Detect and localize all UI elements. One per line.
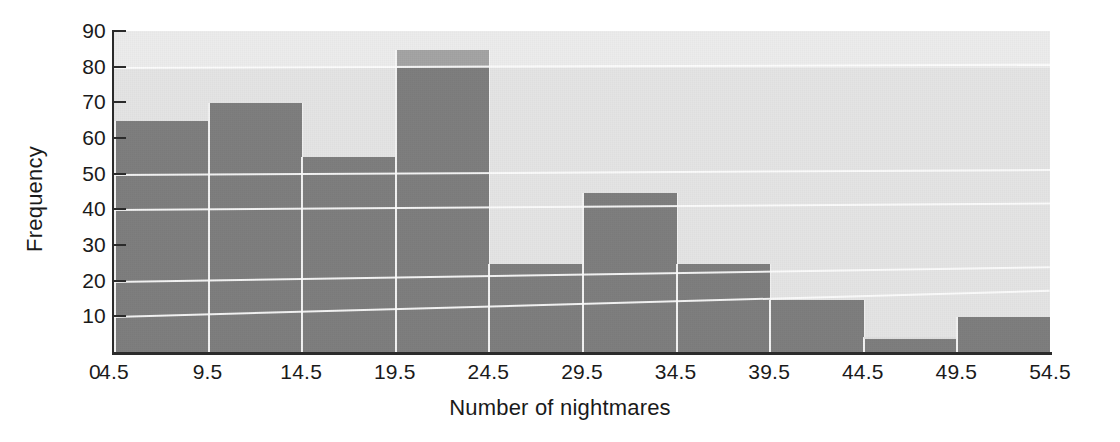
- x-axis-tick-label: 39.5: [748, 360, 790, 384]
- y-axis-tick-label: 90: [66, 20, 106, 41]
- y-axis-tick: [113, 30, 126, 32]
- plot-area: [114, 31, 1050, 353]
- x-axis-tick-label: 29.5: [561, 360, 603, 384]
- y-axis-tick: [113, 280, 126, 282]
- bar: [863, 337, 959, 353]
- y-axis-tick-label: 20: [66, 270, 106, 291]
- x-axis-tick-label: 14.5: [280, 360, 322, 384]
- y-axis-tick-label: 80: [66, 56, 106, 77]
- bar: [208, 103, 304, 353]
- bar: [769, 300, 865, 354]
- y-axis-tick-label: 10: [66, 305, 106, 326]
- bar: [956, 317, 1050, 353]
- y-axis-tick-label: 30: [66, 234, 106, 255]
- x-axis-tick-label: 4.5: [99, 360, 129, 384]
- bar: [488, 264, 584, 353]
- x-axis-tick-label: 44.5: [842, 360, 884, 384]
- histogram-figure: 102030405060708090 04.59.514.519.524.529…: [0, 0, 1120, 442]
- y-axis-tick: [113, 244, 126, 246]
- x-axis-line: [112, 352, 1052, 355]
- y-axis-tick: [113, 173, 126, 175]
- y-axis-line: [112, 30, 114, 354]
- y-axis-tick-label: 50: [66, 163, 106, 184]
- y-axis-tick-label: 40: [66, 198, 106, 219]
- x-axis-tick-label: 24.5: [468, 360, 510, 384]
- bar: [676, 264, 772, 353]
- bar: [301, 157, 397, 353]
- y-axis-tick: [113, 208, 126, 210]
- y-axis-tick: [113, 137, 126, 139]
- y-axis-tick-label: 70: [66, 91, 106, 112]
- x-axis-tick-label: 49.5: [936, 360, 978, 384]
- y-axis-tick: [113, 315, 126, 317]
- x-axis-title: Number of nightmares: [0, 395, 1120, 421]
- y-axis-tick: [113, 66, 126, 68]
- y-axis-title: Frequency: [22, 119, 48, 279]
- x-axis-tick-label: 9.5: [193, 360, 223, 384]
- x-axis-tick-label: 19.5: [374, 360, 416, 384]
- x-axis-tick-label: 34.5: [655, 360, 697, 384]
- y-axis-tick-label: 60: [66, 127, 106, 148]
- x-axis-tick-label: 54.5: [1029, 360, 1071, 384]
- bar: [114, 121, 210, 353]
- y-axis-tick: [113, 101, 126, 103]
